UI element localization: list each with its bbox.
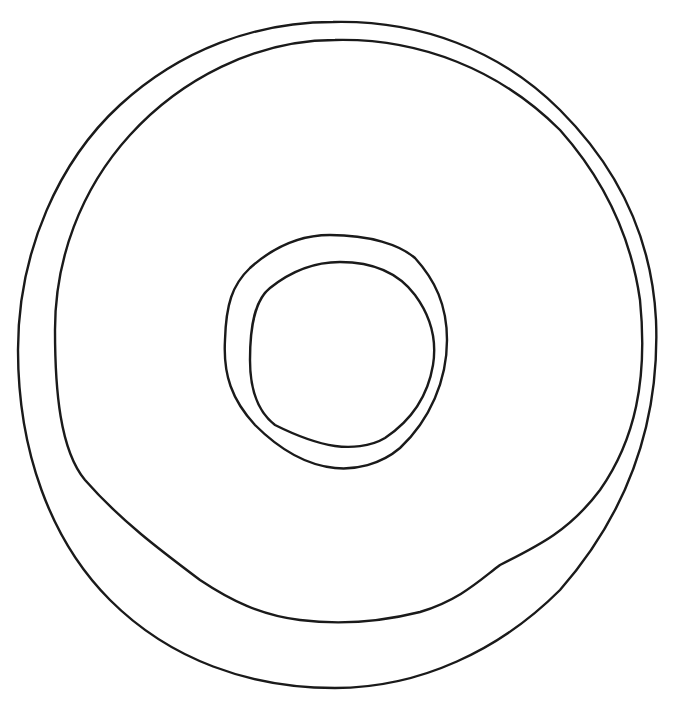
donut-hole-outer-edge	[225, 235, 447, 468]
donut-line-drawing	[0, 0, 677, 703]
donut-outer-edge	[18, 22, 656, 688]
donut-hole-inner-edge	[250, 262, 434, 447]
donut-icon	[0, 0, 677, 703]
donut-icing-edge	[55, 40, 642, 622]
